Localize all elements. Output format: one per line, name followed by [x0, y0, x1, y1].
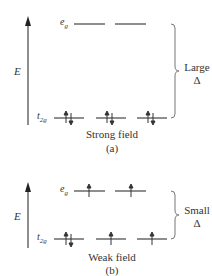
energy-axis-arrowhead-icon: [25, 16, 31, 26]
t2g-label-sub: 2g: [40, 237, 47, 245]
splitting-brace-icon: [171, 24, 179, 118]
splitting-size-text: Small: [182, 205, 212, 216]
eg-label-sub: g: [64, 189, 68, 197]
panel-b: [25, 182, 179, 248]
panel-caption: Strong field: [60, 129, 164, 140]
panel-sub-caption: (b): [60, 265, 164, 276]
t2g-level-label: t2g: [37, 111, 47, 124]
delta-symbol: Δ: [182, 75, 212, 86]
energy-axis-arrowhead-icon: [25, 182, 31, 192]
t2g-label-sub: 2g: [40, 116, 47, 124]
splitting-label: Small Δ: [182, 205, 212, 229]
t2g-level-label: t2g: [37, 232, 47, 245]
splitting-size-text: Large: [182, 62, 212, 73]
eg-level-label: eg: [60, 184, 68, 197]
energy-axis-label: E: [14, 66, 21, 77]
panel-caption: Weak field: [60, 252, 164, 263]
splitting-label: Large Δ: [182, 62, 212, 86]
eg-label-sub: g: [64, 22, 68, 30]
eg-level-label: eg: [60, 17, 68, 30]
panel-sub-caption: (a): [60, 143, 164, 154]
energy-axis-label: E: [14, 211, 21, 222]
delta-symbol: Δ: [182, 218, 212, 229]
splitting-brace-icon: [171, 191, 179, 239]
panel-a: [25, 16, 179, 125]
